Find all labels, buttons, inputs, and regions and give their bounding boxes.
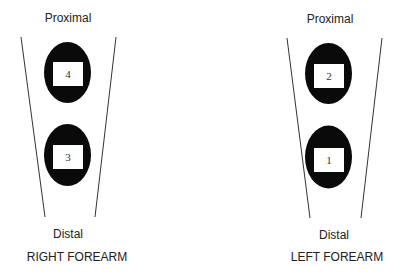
left-forearm-right-edge [361,38,382,218]
right-forearm-left-edge [21,37,45,217]
site-number: 2 [326,70,332,82]
site-number: 4 [65,68,71,80]
site-number: 3 [65,151,71,163]
right-forearm-right-edge [95,37,116,217]
site-number: 1 [326,154,332,166]
site-4: 4 [44,42,91,103]
right-proximal-label: Proximal [45,11,92,25]
site-3: 3 [44,124,91,186]
left-forearm-title: LEFT FOREARM [291,250,383,264]
site-2: 2 [305,43,352,104]
left-forearm: 2 1 [287,38,382,218]
site-1: 1 [305,126,352,189]
right-distal-label: Distal [53,227,83,241]
right-forearm: 4 3 [21,37,116,217]
right-forearm-title: RIGHT FOREARM [27,250,127,264]
left-proximal-label: Proximal [307,12,354,26]
left-distal-label: Distal [319,228,349,242]
